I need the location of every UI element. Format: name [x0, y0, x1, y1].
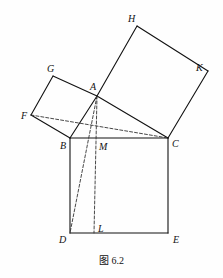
- vertex-label-e: E: [173, 235, 179, 245]
- geometry-figure: HGKAFBCMDLE 图 6.2: [0, 0, 223, 278]
- vertex-label-k: K: [196, 63, 203, 73]
- vertex-label-f: F: [21, 111, 27, 121]
- vertex-label-h: H: [128, 14, 135, 24]
- vertex-label-a: A: [90, 82, 96, 92]
- segment-A-L: [94, 96, 97, 233]
- vertex-label-c: C: [172, 139, 179, 149]
- solid-line-group: [31, 26, 208, 233]
- segment-F-G: [31, 76, 53, 115]
- vertex-label-l: L: [98, 224, 104, 234]
- vertex-label-b: B: [60, 141, 66, 151]
- figure-caption: 图 6.2: [0, 252, 223, 267]
- vertex-label-m: M: [99, 142, 107, 152]
- vertex-label-g: G: [47, 64, 54, 74]
- dashed-line-group: [31, 96, 168, 233]
- geometry-canvas: [0, 0, 223, 278]
- segment-K-C: [168, 71, 208, 138]
- vertex-label-d: D: [59, 235, 66, 245]
- segment-A-H: [97, 26, 137, 96]
